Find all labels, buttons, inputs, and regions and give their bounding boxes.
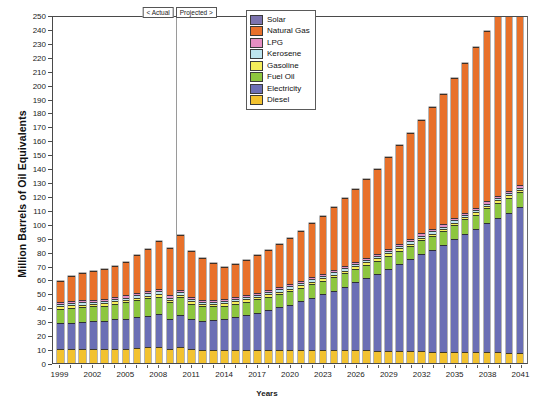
bar-segment-natural-gas — [484, 31, 491, 202]
stacked-bar — [243, 260, 250, 363]
bar-slot — [197, 17, 208, 363]
bar-segment-fuel-oil — [298, 288, 305, 302]
x-tick-label: 2038 — [479, 370, 497, 379]
actual-marker: < Actual — [142, 7, 173, 18]
x-tick-mark — [323, 365, 324, 368]
bar-segment-diesel — [265, 350, 272, 363]
bar-segment-diesel — [57, 349, 64, 363]
bar-segment-natural-gas — [167, 248, 174, 295]
bar-segment-diesel — [167, 349, 174, 363]
bar-segment-electricity — [265, 310, 272, 350]
legend-label: Electricity — [267, 85, 301, 93]
bar-segment-fuel-oil — [134, 300, 141, 317]
y-axis-ticks: 0102030405060708090100110120130140150160… — [0, 0, 52, 406]
stacked-bar — [57, 281, 64, 363]
bar-segment-diesel — [517, 353, 524, 363]
bar-slot — [427, 17, 438, 363]
bar-segment-natural-gas — [210, 263, 217, 300]
bar-segment-natural-gas — [101, 269, 108, 299]
x-tick-mark — [488, 365, 489, 368]
bar-segment-electricity — [210, 320, 217, 350]
legend-item-gasoline[interactable]: Gasoline — [250, 60, 310, 72]
legend-label: Gasoline — [267, 62, 299, 70]
x-tick-mark — [455, 365, 456, 368]
bar-segment-natural-gas — [451, 78, 458, 218]
x-tick-mark — [334, 365, 335, 368]
stacked-bar — [484, 31, 491, 363]
y-tick-label: 170 — [0, 123, 46, 132]
stacked-bar — [276, 244, 283, 363]
stacked-bar — [90, 271, 97, 363]
y-tick-label: 10 — [0, 346, 46, 355]
bar-segment-fuel-oil — [495, 203, 502, 218]
bar-segment-diesel — [90, 349, 97, 363]
bar-slot — [175, 17, 186, 363]
bar-segment-electricity — [407, 259, 414, 350]
stacked-bar — [112, 266, 119, 363]
stacked-bar — [265, 250, 272, 363]
stacked-bar — [374, 169, 381, 363]
bar-segment-electricity — [331, 291, 338, 350]
bar-segment-natural-gas — [156, 241, 163, 289]
bar-segment-fuel-oil — [331, 277, 338, 291]
y-tick-label: 40 — [0, 304, 46, 313]
bar-segment-natural-gas — [407, 133, 414, 239]
x-tick-mark — [499, 365, 500, 368]
bar-segment-fuel-oil — [429, 236, 436, 250]
bar-slot — [405, 17, 416, 363]
bar-segment-electricity — [309, 298, 316, 351]
bar-segment-fuel-oil — [112, 304, 119, 320]
bar-segment-electricity — [145, 316, 152, 348]
bar-segment-natural-gas — [254, 255, 261, 292]
x-tick-label: 2014 — [215, 370, 233, 379]
stacked-bar-chart: Million Barrels of Oil Equivalents Years… — [0, 0, 534, 406]
legend-item-lpg[interactable]: LPG — [250, 37, 310, 49]
bar-segment-electricity — [112, 319, 119, 349]
bar-segment-natural-gas — [188, 251, 195, 297]
legend-label: Kerosene — [267, 50, 301, 58]
bar-slot — [438, 17, 449, 363]
stacked-bar — [145, 249, 152, 363]
bar-segment-natural-gas — [462, 63, 469, 213]
bar-segment-diesel — [210, 350, 217, 363]
bar-segment-fuel-oil — [484, 208, 491, 223]
legend-item-fuel-oil[interactable]: Fuel Oil — [250, 72, 310, 84]
bar-segment-electricity — [68, 323, 75, 350]
legend-item-diesel[interactable]: Diesel — [250, 95, 310, 107]
bar-segment-fuel-oil — [177, 297, 184, 315]
bar-slot — [383, 17, 394, 363]
bar-slot — [132, 17, 143, 363]
legend-item-electricity[interactable]: Electricity — [250, 83, 310, 95]
bar-segment-diesel — [68, 349, 75, 363]
bar-segment-natural-gas — [473, 47, 480, 207]
x-tick-mark — [422, 365, 423, 368]
legend-item-solar[interactable]: Solar — [250, 14, 310, 26]
bar-slot — [394, 17, 405, 363]
bar-segment-natural-gas — [429, 107, 436, 229]
bar-segment-electricity — [101, 321, 108, 350]
bar-segment-fuel-oil — [167, 302, 174, 318]
bar-segment-diesel — [188, 349, 195, 363]
bar-segment-electricity — [79, 322, 86, 349]
stacked-bar — [385, 157, 392, 363]
x-tick-mark — [367, 365, 368, 368]
bar-segment-diesel — [429, 352, 436, 363]
bar-segment-natural-gas — [79, 273, 86, 300]
legend-item-natural-gas[interactable]: Natural Gas — [250, 26, 310, 38]
bar-segment-diesel — [407, 351, 414, 363]
bar-segment-fuel-oil — [374, 261, 381, 275]
bar-segment-fuel-oil — [320, 281, 327, 295]
bar-slot — [153, 17, 164, 363]
bar-segment-diesel — [156, 347, 163, 363]
bar-segment-fuel-oil — [440, 231, 447, 245]
x-tick-mark — [433, 365, 434, 368]
x-tick-label: 2020 — [281, 370, 299, 379]
x-tick-mark — [477, 365, 478, 368]
bar-segment-electricity — [254, 313, 261, 350]
x-tick-mark — [224, 365, 225, 368]
legend-label: LPG — [267, 39, 283, 47]
legend-item-kerosene[interactable]: Kerosene — [250, 49, 310, 61]
stacked-bar — [177, 235, 184, 363]
bar-segment-fuel-oil — [396, 251, 403, 265]
x-tick-label: 2035 — [446, 370, 464, 379]
